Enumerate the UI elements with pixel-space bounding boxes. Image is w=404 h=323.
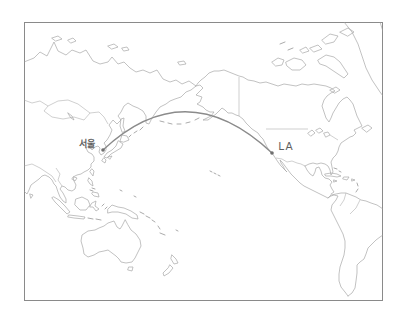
arctic-islands-russia (52, 36, 186, 65)
flight-route: 서울 LA (79, 112, 294, 155)
eurasia-coastline (24, 42, 196, 203)
lesser-sunda-islands (88, 204, 107, 220)
sumatra (52, 197, 70, 214)
sakhalin (120, 118, 125, 132)
mexico-caribbean-coastline (305, 166, 334, 194)
new-guinea (108, 205, 138, 219)
flight-arc (103, 112, 272, 153)
borneo (75, 197, 90, 210)
arctic-island-specks (280, 42, 293, 50)
tasmania (128, 267, 133, 271)
java (68, 215, 85, 219)
map-frame (25, 23, 383, 301)
map-content: 서울 LA (24, 22, 392, 296)
melanesia-islands (140, 212, 178, 235)
south-america-borders (340, 193, 360, 214)
new-zealand (163, 255, 178, 276)
visayas-islands (90, 188, 95, 191)
canadian-arctic-islands (272, 28, 354, 93)
micronesia-islands (120, 190, 136, 197)
origin-marker (101, 148, 105, 152)
origin-label: 서울 (79, 138, 95, 149)
newfoundland (362, 125, 372, 132)
world-map-svg: 서울 LA (0, 0, 404, 323)
taiwan (90, 169, 94, 176)
north-america-east-coastline (196, 70, 362, 175)
us-canada-border (266, 129, 338, 140)
south-america-atlantic-coastline (348, 235, 383, 296)
sri-lanka (30, 194, 33, 198)
asia-internal-borders (24, 100, 108, 186)
destination-label: LA (278, 140, 294, 152)
destination-marker (270, 151, 274, 155)
map-figure: 서울 LA (0, 0, 404, 323)
australia (81, 220, 141, 263)
hainan (72, 177, 77, 181)
philippines (88, 178, 99, 197)
sulawesi (90, 201, 99, 211)
aleutian-islands (160, 118, 199, 124)
lake-baikal (68, 113, 74, 120)
coastlines (24, 22, 392, 296)
caribbean-islands (325, 173, 355, 182)
hawaii-islands (210, 171, 220, 176)
great-lakes (308, 128, 330, 137)
